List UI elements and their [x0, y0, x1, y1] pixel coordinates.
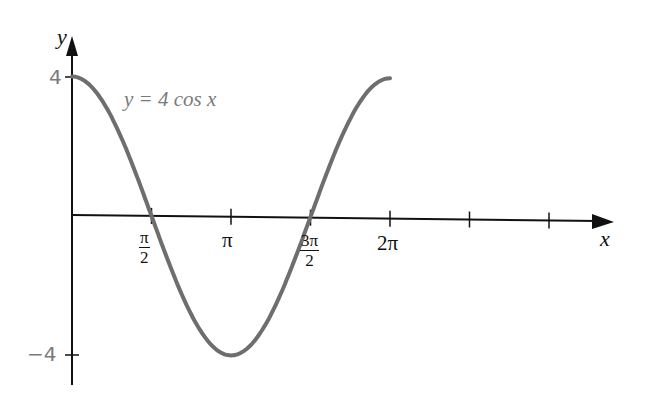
curve-label: y = 4 cos x: [124, 89, 216, 110]
pi-over-2-numerator: π: [139, 229, 150, 248]
plot-canvas: [0, 0, 646, 413]
pi-over-2-denominator: 2: [139, 248, 150, 266]
x-axis-label: x: [600, 228, 610, 250]
3pi-over-2-numerator: 3π: [300, 232, 319, 251]
y-axis-label: y: [57, 26, 67, 48]
curve-label-text: y = 4 cos x: [124, 87, 216, 111]
y-axis-arrow-icon: [66, 36, 78, 56]
y-tick-label-neg4: −4: [27, 344, 56, 364]
cosine-graph: y x 4 −4 y = 4 cos x π 2 π 3π 2 2π: [0, 0, 646, 413]
x-tick-label-pi-over-2: π 2: [139, 229, 150, 266]
x-tick-label-2pi: 2π: [377, 233, 398, 254]
y-tick-label-4: 4: [49, 67, 62, 87]
3pi-over-2-denominator: 2: [300, 251, 319, 269]
x-tick-label-pi: π: [222, 230, 233, 251]
x-tick-label-3pi-over-2: 3π 2: [300, 232, 319, 269]
